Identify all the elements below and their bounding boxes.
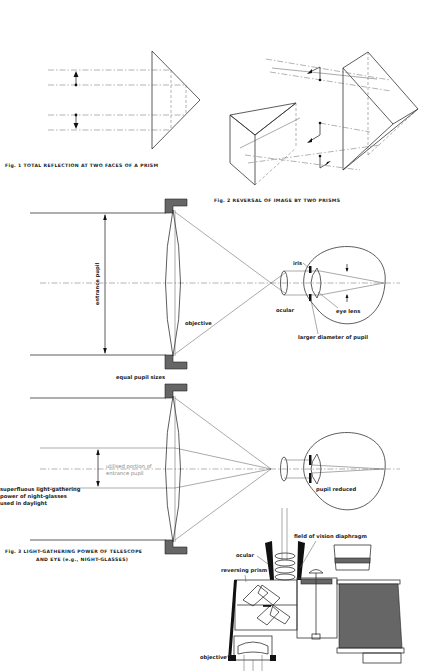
fig3-top-telescope-eye: entrance pupil objective ocular iris eye…: [30, 199, 400, 381]
fig2-right-prism: [343, 52, 418, 170]
fig2-caption: Fig. 2 REVERSAL OF IMAGE BY TWO PRISMS: [214, 198, 340, 203]
iris-reduced-bottom-icon: [309, 473, 312, 483]
ocular-label-top: ocular: [276, 307, 295, 313]
objective-lens-fig4: [238, 642, 268, 654]
iris-top-icon: [309, 266, 312, 273]
objective-mount-bottom: [165, 355, 187, 369]
fig2-left-prism: [230, 103, 296, 185]
fig2-arrow-2-icon: [307, 122, 321, 143]
objective-label-fig4: objective: [200, 654, 227, 661]
superfluous-label-2: power of night-glasses: [0, 493, 67, 500]
entrance-pupil-label: entrance pupil: [94, 263, 101, 306]
objective-mount-bottom-2: [165, 540, 187, 554]
iris-reduced-top-icon: [309, 455, 312, 465]
objective-mount-top: [165, 199, 187, 213]
iris-label: iris: [293, 260, 302, 266]
utilised-portion-label-2: entrance pupil: [106, 470, 144, 477]
superfluous-label-3: used in daylight: [0, 500, 47, 507]
fig4-binocular-cutaway: field of vision diaphragm ocular reversi…: [200, 508, 404, 671]
fig2-two-prisms: Fig. 2 REVERSAL OF IMAGE BY TWO PRISMS: [214, 52, 418, 203]
utilised-portion-label-1: utilised portion of: [106, 463, 152, 470]
fig3-caption-1: Fig. 3 LIGHT-GATHERING POWER OF TELESCOP…: [5, 549, 142, 554]
fig1-prism: [152, 51, 200, 149]
objective-mount-top-2: [165, 384, 187, 398]
ocular-label-fig4: ocular: [236, 552, 255, 558]
objective-label: objective: [185, 320, 212, 327]
fig3-caption-2: AND EYE (e.g., NIGHT-GLASSES): [36, 557, 128, 562]
superfluous-label-1: superfluous light-gathering: [0, 486, 81, 493]
equal-pupil-sizes-label: equal pupil sizes: [116, 374, 165, 381]
fig1-arrow-down-icon: [74, 114, 79, 129]
fig1-arrow-up-icon: [74, 71, 79, 86]
field-of-vision-diaphragm-label: field of vision diaphragm: [294, 533, 367, 540]
fig2-arrow-1-icon: [307, 67, 321, 81]
fig1-prism-reflection: Fig. 1 TOTAL REFLECTION AT TWO FACES OF …: [5, 51, 200, 168]
right-eyecup: [334, 545, 371, 570]
ocular-lens-stack: [275, 553, 295, 580]
larger-diameter-label: larger diameter of pupil: [298, 334, 368, 341]
right-barrel-grip: [339, 584, 402, 648]
eye-lens-label: eye lens: [336, 308, 360, 315]
pupil-reduced-label: pupil reduced: [316, 486, 357, 493]
fig1-caption: Fig. 1 TOTAL REFLECTION AT TWO FACES OF …: [5, 163, 159, 168]
iris-bottom-icon: [309, 294, 312, 301]
reversing-prism-label: reversing prism: [221, 567, 267, 574]
optics-diagram-canvas: Fig. 1 TOTAL REFLECTION AT TWO FACES OF …: [0, 0, 431, 671]
